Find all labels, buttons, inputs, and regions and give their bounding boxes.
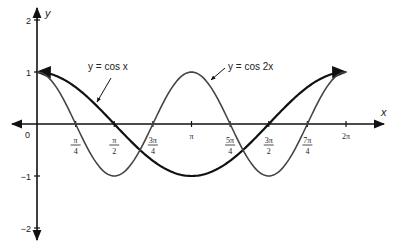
x-tick-label-num: 7π xyxy=(303,136,311,145)
x-tick-label-den: 2 xyxy=(112,147,116,156)
cos-2x-annotation-arrow xyxy=(211,68,225,80)
x-tick-label-den: 4 xyxy=(228,147,232,156)
cos-x-annotation-arrow xyxy=(97,78,111,102)
x-tick-label-den: 4 xyxy=(74,147,78,156)
x-axis-label: x xyxy=(380,106,387,118)
x-tick-label: 2π xyxy=(342,132,350,141)
cos-x-annotation: y = cos x xyxy=(88,61,128,72)
x-tick-label-num: 3π xyxy=(265,136,273,145)
trig-chart: xy021−1−2π4π23π4π5π43π27π42πy = cos xy =… xyxy=(0,0,396,251)
y-tick-label: −2 xyxy=(21,224,31,234)
x-tick-label-den: 2 xyxy=(267,147,271,156)
x-tick-label-num: π xyxy=(112,136,116,145)
x-tick-label-num: 5π xyxy=(226,136,234,145)
x-tick-label: π xyxy=(189,132,193,141)
x-tick-label-num: π xyxy=(74,136,78,145)
x-tick-label-num: 3π xyxy=(149,136,157,145)
x-tick-label-den: 4 xyxy=(151,147,155,156)
y-tick-label: 2 xyxy=(26,16,31,26)
x-tick-label-den: 4 xyxy=(305,147,309,156)
cos-2x-annotation: y = cos 2x xyxy=(228,61,273,72)
y-tick-label: −1 xyxy=(21,172,31,182)
y-tick-label: 1 xyxy=(26,68,31,78)
origin-label: 0 xyxy=(25,130,30,140)
y-axis-label: y xyxy=(44,7,52,19)
